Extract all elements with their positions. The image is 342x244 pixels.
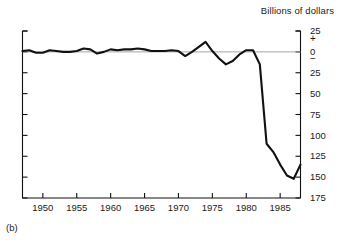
panel-label: (b) [6, 222, 18, 233]
data-series-line [23, 42, 301, 179]
y-axis-tick-label: + [310, 34, 316, 44]
y-axis-tick-label: − [310, 54, 316, 64]
x-axis-tick-label: 1960 [100, 203, 121, 213]
y-axis-tick-label: 25 [310, 68, 321, 78]
y-axis-tick-label: 50 [310, 89, 321, 99]
y-axis-tick-label: 75 [310, 110, 321, 120]
x-axis-tick-label: 1975 [202, 203, 223, 213]
x-axis-tick-label: 1985 [270, 203, 291, 213]
x-axis-tick-label: 1970 [168, 203, 189, 213]
x-axis-tick-label: 1980 [236, 203, 257, 213]
figure-panel-b: Billions of dollars 25+0−255075100125150… [0, 0, 342, 244]
x-axis-tick-label: 1965 [134, 203, 155, 213]
y-axis-tick-label: 150 [310, 172, 326, 182]
x-axis-tick-labels: 19501955196019651970197519801985 [0, 203, 342, 217]
y-axis-tick-label: 175 [310, 193, 326, 203]
y-axis-tick-label: 125 [310, 151, 326, 161]
x-axis-tick-label: 1955 [66, 203, 87, 213]
y-axis-tick-label: 100 [310, 131, 326, 141]
x-axis-tick-label: 1950 [32, 203, 53, 213]
chart-axes [23, 31, 301, 198]
